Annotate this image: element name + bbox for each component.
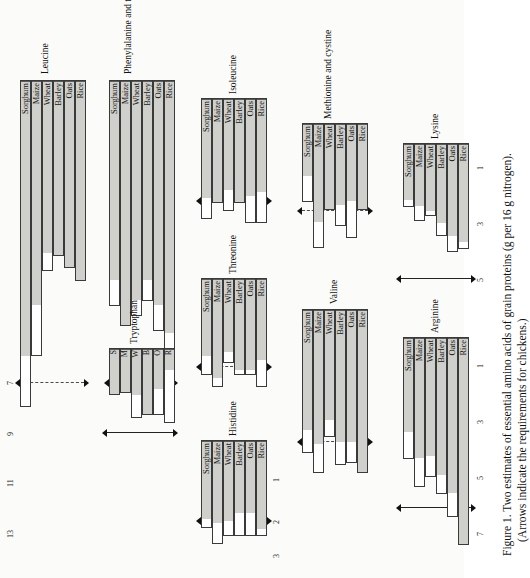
axis-tick-leucine-7: 7 (6, 381, 15, 385)
panel-leucine: 13 11 9 7 Sorghum Maize Wheat Barle (6, 60, 84, 560)
axis-tick-arginine-5: 5 (476, 476, 485, 480)
bar-phe-oats: Oats (153, 80, 164, 331)
bar-label: Rice (255, 443, 267, 459)
requirement-arrowhead-valine-bottom (368, 438, 373, 446)
panel-isoleucine: Sorghum Maize Wheat Barley Oats Rice (192, 93, 282, 243)
panel-histidine: 3 2 1 Sorghum Maize Wheat Barley (192, 420, 282, 560)
bar-phe-barley: Barley (142, 80, 153, 301)
bar-methionine-rice: Rice (357, 123, 368, 210)
bar-arginine-rice: Rice (458, 337, 469, 545)
panel-lysine: 5 3 1 Sorghum Maize Wheat Barley (392, 93, 487, 288)
panel-tryptophan: S M W B O R Tryptophan (95, 328, 173, 438)
bar-leucine-rice: Rice (75, 80, 86, 281)
panel-title-methionine: Methionine and cystine (323, 57, 334, 119)
requirement-arrowhead-lysine-bottom (471, 275, 476, 283)
requirement-arrowhead-isoleucine-bottom (267, 197, 272, 205)
bar-histidine-rice: Rice (256, 440, 267, 536)
panel-title-tryptophan: Tryptophan (129, 284, 139, 344)
axis-tick-arginine-1: 1 (476, 364, 485, 368)
axis-tick-arginine-7: 7 (476, 532, 485, 536)
bar-valine-rice: Rice (357, 309, 368, 473)
axis-tick-leucine-11: 11 (6, 479, 15, 487)
panel-title-phe: Phenylalanine and tyrosine (123, 8, 134, 74)
requirement-arrowhead-threonine-bottom (267, 363, 272, 371)
requirement-arrowhead-arginine-top (396, 504, 401, 512)
panel-title-line: Methionine and cystine (323, 30, 333, 119)
requirement-arrowhead-methionine-top (297, 207, 302, 215)
requirement-line-lysine (401, 278, 471, 279)
axis-tick-lysine-5: 5 (476, 278, 485, 282)
bar-tryptophan-rice: R (164, 348, 175, 423)
axis-tick-histidine-3: 3 (272, 554, 281, 558)
axis-tick-arginine-3: 3 (476, 420, 485, 424)
axis-tick-lysine-1: 1 (476, 166, 485, 170)
bar-label: Rice (74, 83, 86, 99)
panel-title-leucine: Leucine (40, 14, 50, 74)
bar-label: Rice (356, 126, 368, 142)
figure-caption-line1: Figure 1. Two estimates of essential ami… (501, 153, 513, 556)
bar-valine-oats: Oats (346, 309, 357, 463)
bar-phe-sorghum: Sorghum (109, 80, 120, 306)
bar-label: Rice (457, 146, 469, 162)
bar-threonine-rice: Rice (256, 278, 267, 387)
requirement-arrowhead-lysine-top (396, 275, 401, 283)
panel-title-lysine: Lysine (430, 81, 440, 139)
requirement-line-tryptophan (107, 432, 173, 433)
bar-leucine-maize: Maize (31, 80, 42, 356)
bar-valine-barley: Barley (335, 309, 346, 465)
panel-threonine: Sorghum Maize Wheat Barley Oats Rice (192, 258, 282, 403)
bar-label: R (163, 350, 175, 355)
requirement-arrowhead-methionine-bottom (368, 207, 373, 215)
bar-arginine-oats: Oats (447, 337, 458, 517)
requirement-arrowhead-leucine-bottom (84, 379, 89, 387)
bar-label: Rice (356, 312, 368, 328)
bar-lysine-rice: Rice (458, 143, 469, 249)
figure-caption-line2: (Arrows indicate the requirements for ch… (515, 16, 530, 556)
requirement-arrowhead-histidine-bottom (267, 517, 272, 525)
axis-tick-leucine-9: 9 (6, 432, 15, 436)
bar-leucine-oats: Oats (64, 80, 75, 268)
axis-tick-lysine-3: 3 (476, 222, 485, 226)
axis-tick-histidine-1: 1 (272, 478, 281, 482)
panel-arginine: 7 5 3 1 Sorghum Maize Wheat Barley (392, 320, 487, 560)
bar-leucine-barley: Barley (53, 80, 64, 256)
panel-title-line: Phenylalanine and tyrosine (123, 0, 133, 74)
panel-methionine-cystine: Sorghum Maize Wheat Barley Oats Rice (293, 93, 383, 268)
bar-label: Rice (457, 340, 469, 356)
bar-tryptophan-wheat: W (131, 348, 142, 418)
requirement-arrowhead-tryptophan-bottom (173, 429, 178, 437)
bar-tryptophan-barley: B (142, 348, 153, 415)
bar-leucine-sorghum: Sorghum (20, 80, 31, 407)
bar-isoleucine-oats: Oats (245, 98, 256, 223)
figure-caption: Figure 1. Two estimates of essential ami… (500, 16, 530, 556)
requirement-arrowhead-tryptophan-top (102, 429, 107, 437)
axis-tick-histidine-2: 2 (272, 520, 281, 524)
panel-valine: Sorghum Maize Wheat Barley Oats Rice (293, 288, 383, 473)
bar-tryptophan-oats: O (153, 348, 164, 415)
bar-label: Rice (255, 281, 267, 297)
bar-leucine-wheat: Wheat (42, 80, 53, 271)
requirement-arrowhead-arginine-bottom (471, 504, 476, 512)
bar-arginine-barley: Barley (436, 337, 447, 494)
bar-isoleucine-rice: Rice (256, 98, 267, 223)
bar-phe-wheat: Wheat (131, 80, 142, 316)
bar-label: Rice (163, 83, 175, 99)
bar-label: Rice (255, 101, 267, 117)
axis-tick-leucine-13: 13 (6, 530, 15, 538)
panel-title-isoleucine: Isoleucine (228, 32, 238, 94)
